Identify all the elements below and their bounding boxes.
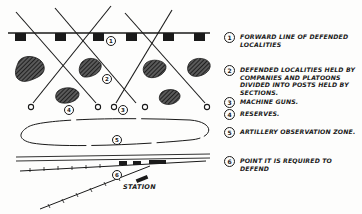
legend-number: 6 [224,156,235,167]
reserves [56,88,180,105]
marker-forward-line: 1 [106,36,116,46]
legend-item-reserves: 4 RESERVES. [224,110,358,120]
legend: 1 FORWARD LINE OF DEFENDED LOCALITIES 2 … [224,0,362,214]
marker-reserves: 4 [64,105,74,115]
legend-item-machine-guns: 3 MACHINE GUNS. [224,98,358,108]
railway-ties [30,164,120,208]
legend-text: DEFENDED LOCALITIES HELD BY COMPANIES AN… [240,66,358,96]
legend-number: 1 [224,32,235,43]
road [16,154,210,161]
legend-item-forward-line: 1 FORWARD LINE OF DEFENDED LOCALITIES [224,33,358,48]
legend-number: 4 [224,109,235,120]
railway [20,161,206,209]
station-label: STATION [123,183,156,191]
legend-item-defended-localities: 2 DEFENDED LOCALITIES HELD BY COMPANIES … [224,66,358,96]
legend-text: FORWARD LINE OF DEFENDED LOCALITIES [240,33,358,48]
legend-text: POINT IT IS REQUIRED TO DEFEND [240,157,358,172]
legend-number: 3 [224,97,235,108]
legend-text: MACHINE GUNS. [240,98,358,106]
machine-gun-fire-lines [16,6,205,103]
legend-item-point-to-defend: 6 POINT IT IS REQUIRED TO DEFEND [224,157,358,172]
marker-defended-locality: 2 [102,74,112,84]
legend-number: 5 [224,127,235,138]
defended-localities [15,56,210,81]
station-buildings [119,160,166,183]
defence-diagram: 1 2 4 3 5 6 STATION 1 FORWARD LINE OF DE… [0,0,362,214]
legend-text: RESERVES. [240,110,358,118]
marker-observation-zone: 5 [112,135,122,145]
legend-number: 2 [224,65,235,76]
legend-item-observation-zone: 5 ARTILLERY OBSERVATION ZONE. [224,128,358,138]
legend-text: ARTILLERY OBSERVATION ZONE. [240,128,358,136]
marker-station-point: 6 [112,170,122,180]
marker-machine-gun: 3 [118,105,128,115]
